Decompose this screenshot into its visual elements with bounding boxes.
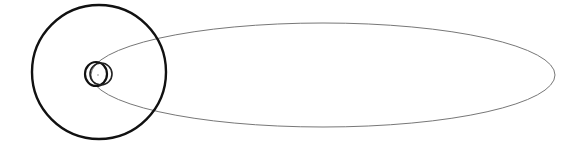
background xyxy=(0,0,582,141)
sun-dot xyxy=(97,74,99,76)
orbit-diagram xyxy=(0,0,582,141)
